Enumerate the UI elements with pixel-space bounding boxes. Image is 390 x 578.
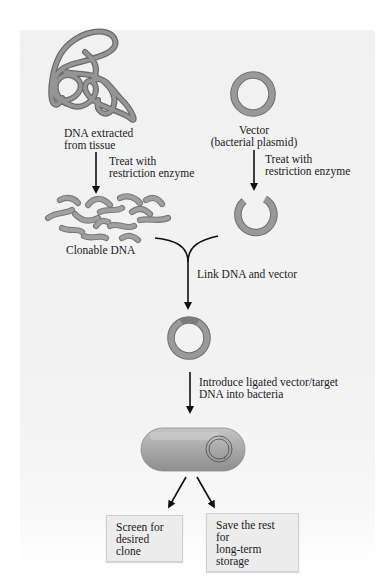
treat-right-label: Treat with restriction enzyme [265,153,350,177]
merge-curve-left [155,238,188,262]
clonable-dna-label: Clonable DNA [66,244,135,256]
merge-curve-right [188,236,218,262]
dna-fragments-icon [48,196,168,240]
plasmid-ring-icon [234,75,272,113]
arrow-save [197,477,213,505]
tangled-dna-icon [51,32,133,120]
treat-left-label: Treat with restriction enzyme [109,155,194,179]
long-term-storage-box: Save the rest for long-term storage [206,513,299,572]
recombinant-plasmid-icon [171,320,207,356]
tissue-dna-label: DNA extracted from tissue [64,127,133,151]
bacterium-icon [141,428,245,471]
introduce-step-label: Introduce ligated vector/target DNA into… [199,376,338,400]
cut-plasmid-icon [238,199,274,233]
arrow-screen [170,477,186,505]
screen-clone-box: Screen for desired clone [106,515,183,562]
link-step-label: Link DNA and vector [197,268,297,280]
vector-label: Vector (bacterial plasmid) [208,124,300,148]
diagram-canvas [0,0,390,578]
